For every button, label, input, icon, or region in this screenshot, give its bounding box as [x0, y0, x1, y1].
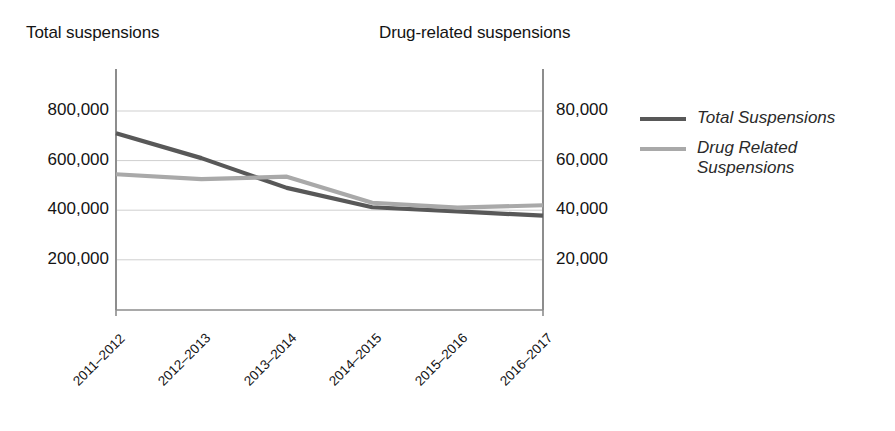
right-axis-tick-label: 80,000 [556, 100, 608, 120]
right-axis-tick-label: 40,000 [556, 199, 608, 219]
legend-line-swatch-icon [640, 147, 686, 151]
left-axis-tick-label: 600,000 [48, 150, 109, 170]
legend-item-label: Drug Related Suspensions [697, 138, 797, 178]
gridlines [116, 111, 543, 260]
plot-area [0, 0, 895, 431]
right-axis-tick-label: 20,000 [556, 249, 608, 269]
right-axis-tick-label: 60,000 [556, 150, 608, 170]
series-line [116, 174, 543, 207]
chart-figure: Total suspensions Drug-related suspensio… [0, 0, 895, 431]
left-axis-tick-label: 400,000 [48, 199, 109, 219]
axis-lines [116, 69, 543, 316]
legend-item[interactable]: Drug Related Suspensions [640, 138, 890, 178]
legend-item[interactable]: Total Suspensions [640, 108, 890, 128]
left-axis-tick-label: 800,000 [48, 100, 109, 120]
chart-legend: Total SuspensionsDrug Related Suspension… [640, 108, 890, 188]
legend-line-swatch-icon [640, 117, 686, 121]
series-line [116, 133, 543, 215]
left-axis-tick-label: 200,000 [48, 249, 109, 269]
legend-item-label: Total Suspensions [697, 108, 835, 128]
series-lines [116, 133, 543, 215]
